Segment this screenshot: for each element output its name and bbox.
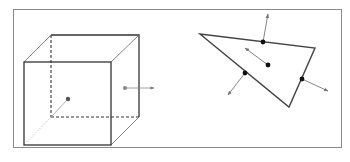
left-edge-normal-arrow — [228, 73, 245, 95]
centroid-dot — [266, 63, 271, 68]
triangle — [200, 14, 328, 107]
face-point-dot — [123, 86, 127, 90]
top-edge-dot — [261, 40, 266, 45]
triangle-outline — [200, 34, 315, 107]
depth-edge-top-left — [24, 35, 51, 62]
diagram-stage — [0, 0, 350, 162]
front-face — [24, 62, 111, 145]
depth-edge-bottom-right — [111, 117, 139, 145]
panel-border — [14, 10, 342, 148]
right-edge-normal-arrow — [302, 79, 328, 91]
cube — [24, 35, 154, 145]
center-ray — [51, 99, 68, 117]
right-edge-dot — [300, 77, 305, 82]
figure-frame — [14, 10, 342, 148]
left-edge-dot — [243, 71, 248, 76]
depth-edge-top-right — [111, 35, 139, 62]
geometry-figure — [0, 0, 350, 162]
hidden-depth-edge — [27, 117, 51, 142]
center-point-dot — [66, 97, 70, 101]
top-edge-normal-arrow — [263, 14, 268, 42]
centroid-normal-arrow — [245, 48, 268, 65]
